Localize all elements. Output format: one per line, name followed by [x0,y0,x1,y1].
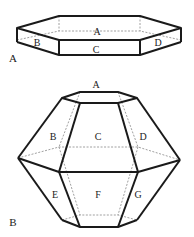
face-label-b-upper-left: B [50,131,57,142]
figure-b-bipyramid [18,92,180,227]
face-label-a-left: B [34,37,41,48]
face-label-b-lower-left: E [52,189,58,200]
face-label-b-lower-front: F [95,189,101,200]
face-label-a-top: A [93,26,101,37]
face-label-b-lower-right: G [134,189,141,200]
face-label-a-front: C [93,44,100,55]
face-label-b-upper-front: C [95,131,102,142]
face-label-b-top: A [92,79,100,90]
face-label-b-upper-right: D [139,131,146,142]
figure-label-a: A [9,52,17,64]
crystal-diagram: A B C D A A B C D E F G B [0,0,194,237]
face-label-a-right: D [154,37,161,48]
figure-label-b: B [9,216,16,228]
